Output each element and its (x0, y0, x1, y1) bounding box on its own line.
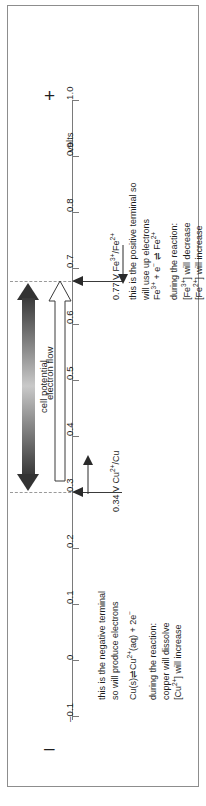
cell-potential-gradient-bar (22, 298, 35, 474)
axis-tick-label-0.8: 0.8 (64, 198, 75, 212)
axis-tick-0.7 (72, 268, 79, 269)
axis-tick-label--0.1: –0.1 (64, 703, 75, 722)
positive-during-reaction: during the reaction: [Fe3+] will decreas… (168, 222, 206, 300)
axis-tick-0.4 (72, 436, 79, 437)
axis-tick-0.9 (72, 156, 79, 157)
cathode-potential-value: 0.77 V Fe3+/Fe2+ (110, 233, 122, 300)
negative-terminal-symbol: – (44, 738, 55, 757)
axis-tick-0.1 (72, 604, 79, 605)
positive-half-equation: Fe3+ + e− ⇌ Fe2+ (151, 232, 164, 300)
axis-tick-0.2 (72, 548, 79, 549)
axis-tick-label-0: 0 (64, 655, 75, 660)
cathode-couple: Fe3+/Fe2+ (111, 233, 121, 272)
negative-half-equation: Cu(s)⇌Cu2+(aq) + 2e− (127, 611, 140, 700)
dashed-guide-034 (10, 492, 76, 493)
anode-couple: Cu2+/Cu (111, 450, 121, 483)
axis-tick-label-1.0: 1.0 (64, 86, 75, 100)
axis-tick-label-0.1: 0.1 (64, 590, 75, 604)
axis-tick-1.0 (72, 100, 79, 101)
axis-tick-0.8 (72, 212, 79, 213)
negative-terminal-annotation: this is the negative terminal so will pr… (96, 591, 121, 700)
positive-terminal-annotation: this is the positive terminal so will us… (127, 182, 152, 300)
cathode-arrowhead-icon (72, 276, 84, 287)
cell-potential-arrowhead-down (17, 474, 39, 491)
axis-tick-label-0.7: 0.7 (64, 254, 75, 268)
anode-potential-value: 0.34 V Cu2+/Cu (110, 450, 122, 512)
diagram-canvas: 1.0 0.9 0.8 0.7 0.6 0.5 0.4 0.3 0.2 0.1 … (0, 0, 206, 806)
axis-tick-0.5 (72, 380, 79, 381)
electron-flow-label: electron flow (44, 347, 55, 400)
axis-tick-label-0.2: 0.2 (64, 534, 75, 548)
anode-up-arrow-icon (83, 455, 94, 495)
negative-during-reaction: during the reaction: copper will dissolv… (147, 622, 185, 700)
positive-terminal-symbol: + (44, 86, 55, 105)
axis-tick-0 (72, 660, 79, 661)
axis-unit-label: volts (64, 132, 75, 152)
axis-tick-0.6 (72, 324, 79, 325)
